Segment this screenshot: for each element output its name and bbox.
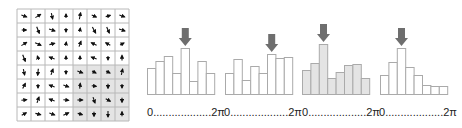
histogram-bar xyxy=(259,74,267,95)
histogram-bar xyxy=(276,59,284,95)
gradient-arrow-icon xyxy=(107,27,110,33)
gradient-arrow-icon xyxy=(23,55,26,62)
gradient-arrow-icon xyxy=(37,56,38,60)
axis-end: 2π xyxy=(366,106,380,118)
gradient-arrow-icon xyxy=(63,100,68,101)
gradient-arrow-icon xyxy=(35,113,40,114)
histogram-bar xyxy=(206,74,214,95)
axis-dots: ................... xyxy=(153,106,211,118)
gradient-arrow-icon xyxy=(119,29,125,31)
gradient-arrow-icon xyxy=(35,43,41,46)
gradient-arrow-icon xyxy=(49,57,54,59)
gradient-arrow-icon xyxy=(92,27,95,33)
histogram-bar xyxy=(353,65,361,95)
gradient-arrow-icon xyxy=(120,43,124,45)
axis-label-1: 0...................2π xyxy=(147,106,225,118)
gradient-arrow-icon xyxy=(106,15,111,16)
gradient-arrow-icon xyxy=(49,85,54,87)
histogram-bar xyxy=(242,81,250,95)
dominant-orientation-arrow-icon xyxy=(179,28,192,46)
gradient-arrow-icon xyxy=(35,14,40,17)
histogram-bar xyxy=(181,49,189,95)
gradient-arrow-icon xyxy=(21,15,26,17)
dominant-orientation-arrow-icon xyxy=(265,34,278,52)
gradient-arrow-icon xyxy=(37,27,40,34)
histogram-bar xyxy=(156,62,164,95)
orientation-histogram-2 xyxy=(225,0,296,100)
gradient-arrow-icon xyxy=(92,15,97,17)
gradient-arrow-icon xyxy=(37,97,39,103)
gradient-arrow-icon xyxy=(79,41,81,46)
gradient-arrow-icon xyxy=(66,42,67,46)
gradient-arrow-icon xyxy=(91,43,96,46)
gradient-arrow-icon xyxy=(63,113,68,116)
histogram-bar xyxy=(345,66,353,95)
gradient-arrow-icon xyxy=(49,29,55,31)
gradient-arrow-icon xyxy=(106,43,111,46)
histogram-bar xyxy=(251,67,259,95)
gradient-arrow-icon xyxy=(49,99,54,101)
gradient-arrow-icon xyxy=(23,69,24,75)
histogram-bar xyxy=(173,74,181,95)
histogram-bar xyxy=(226,74,234,95)
histogram-bar xyxy=(406,68,414,95)
gradient-arrow-icon xyxy=(119,15,124,17)
histogram-bar xyxy=(439,87,447,95)
gradient-arrow-icon xyxy=(51,69,53,75)
gradient-arrow-icon xyxy=(21,42,26,45)
orientation-histogram-1 xyxy=(147,0,218,100)
gradient-arrow-icon xyxy=(22,113,27,116)
orientation-histogram-4 xyxy=(380,0,451,100)
histogram-bar xyxy=(164,57,172,95)
histogram-bar xyxy=(423,86,431,95)
histogram-bar xyxy=(389,63,397,95)
gradient-arrow-icon xyxy=(49,43,54,44)
gradient-arrow-icon xyxy=(21,100,26,101)
histogram-bar xyxy=(319,45,327,95)
histogram-bar xyxy=(303,71,311,95)
gradient-arrow-icon xyxy=(49,113,54,115)
gradient-arrow-icon xyxy=(80,28,81,32)
orientation-histogram-3 xyxy=(302,0,373,100)
axis-dots: ................... xyxy=(385,106,443,118)
dominant-orientation-arrow-icon xyxy=(317,24,330,42)
dominant-orientation-arrow-icon xyxy=(395,28,408,46)
histogram-bar xyxy=(190,82,198,95)
axis-end: 2π xyxy=(443,106,457,118)
gradient-arrow-icon xyxy=(92,86,97,87)
histogram-bar xyxy=(234,60,242,95)
histogram-bar xyxy=(148,69,156,95)
axis-dots: ................... xyxy=(230,106,288,118)
histogram-bar xyxy=(284,58,292,95)
axis-dots: ................... xyxy=(308,106,366,118)
axis-label-3: 0...................2π xyxy=(302,106,380,118)
gradient-arrow-icon xyxy=(79,13,80,20)
histogram-bar xyxy=(397,49,405,95)
histogram-bar xyxy=(414,76,422,95)
histogram-bar xyxy=(328,79,336,95)
histogram-bar xyxy=(198,62,206,95)
gradient-arrow-icon xyxy=(91,57,96,59)
axis-label-2: 0...................2π xyxy=(224,106,302,118)
gradient-arrow-icon xyxy=(38,69,39,76)
histogram-bar xyxy=(381,76,389,95)
gradient-arrow-icon xyxy=(51,13,52,19)
gradient-arrow-icon xyxy=(80,83,81,88)
histogram-bar xyxy=(431,87,439,95)
gradient-arrow-icon xyxy=(23,83,26,88)
axis-end: 2π xyxy=(288,106,302,118)
histogram-bar xyxy=(311,64,319,95)
axis-label-4: 0...................2π xyxy=(379,106,457,118)
histogram-bar xyxy=(268,55,276,95)
axis-end: 2π xyxy=(211,106,225,118)
gradient-arrow-icon xyxy=(63,85,68,87)
histogram-bar xyxy=(336,73,344,95)
histogram-bar xyxy=(361,79,369,95)
gradient-grid xyxy=(0,0,140,128)
